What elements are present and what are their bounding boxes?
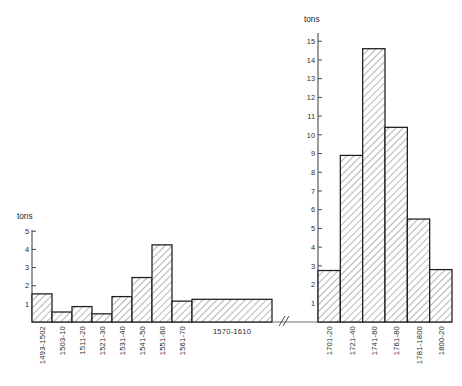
x-category-label: 1781-1800 — [415, 326, 424, 364]
y-tick-label: 4 — [311, 243, 315, 252]
y-tick-label: 15 — [307, 37, 315, 46]
y-tick-label: 8 — [311, 168, 315, 177]
x-category-label: 1521-30 — [98, 326, 107, 355]
x-category-label: 1511-20 — [78, 326, 87, 355]
x-category-label: 1741-60 — [370, 326, 379, 355]
bar — [172, 301, 192, 322]
y-tick-label: 2 — [25, 281, 29, 290]
figure-container: tons 12345 1493-15021503-101511-201521-3… — [0, 0, 462, 386]
y-tick-label: 6 — [311, 205, 315, 214]
x-category-label: 1503-10 — [58, 326, 67, 355]
bar — [385, 127, 407, 322]
x-category-label: 1551-60 — [158, 326, 167, 355]
bar — [112, 297, 132, 322]
bar — [318, 271, 340, 322]
x-category-label: 1541-50 — [138, 326, 147, 355]
bar — [340, 155, 362, 322]
left-category-labels: 1493-15021503-101511-201521-301531-40154… — [38, 326, 251, 364]
y-tick-label: 12 — [307, 93, 315, 102]
y-tick-label: 2 — [311, 280, 315, 289]
y-tick-label: 5 — [311, 224, 315, 233]
bar — [132, 278, 152, 322]
y-tick-label: 11 — [307, 112, 315, 121]
right-histogram: tons 123456789101112131415 1701-201721-4… — [304, 15, 452, 364]
x-category-label: 1761-80 — [392, 326, 401, 355]
x-category-label: 1531-40 — [118, 326, 127, 355]
x-category-label: 1800-20 — [437, 326, 446, 355]
y-tick-label: 13 — [307, 74, 315, 83]
bar — [32, 294, 52, 322]
bar — [152, 245, 172, 322]
y-tick-label: 5 — [25, 227, 29, 236]
bar — [192, 299, 272, 322]
bar — [363, 49, 385, 322]
x-category-label: 1570-1610 — [213, 327, 251, 336]
left-histogram: tons 12345 1493-15021503-101511-201521-3… — [17, 212, 272, 364]
y-tick-label: 10 — [307, 131, 315, 140]
y-tick-label: 9 — [311, 149, 315, 158]
x-category-label: 1561-70 — [178, 326, 187, 355]
bar — [430, 270, 452, 322]
bar — [407, 219, 429, 322]
left-y-axis-unit-label: tons — [17, 212, 32, 221]
y-tick-label: 4 — [25, 245, 29, 254]
y-tick-label: 3 — [25, 263, 29, 272]
right-bars — [318, 49, 452, 322]
bar — [92, 314, 112, 322]
axis-break — [272, 316, 318, 326]
x-category-label: 1701-20 — [325, 326, 334, 355]
x-category-label: 1493-1502 — [38, 326, 47, 364]
dual-histogram-figure: tons 12345 1493-15021503-101511-201521-3… — [0, 0, 462, 386]
y-tick-label: 7 — [311, 187, 315, 196]
left-bars — [32, 245, 272, 322]
right-category-labels: 1701-201721-401741-601761-801781-1800180… — [325, 326, 446, 364]
right-y-axis-unit-label: tons — [304, 15, 319, 24]
y-tick-label: 1 — [25, 300, 29, 309]
bar — [72, 307, 92, 322]
y-tick-label: 3 — [311, 262, 315, 271]
y-tick-label: 14 — [307, 56, 315, 65]
y-tick-label: 1 — [311, 299, 315, 308]
x-category-label: 1721-40 — [348, 326, 357, 355]
bar — [52, 312, 72, 322]
right-y-ticks: 123456789101112131415 — [307, 37, 322, 308]
